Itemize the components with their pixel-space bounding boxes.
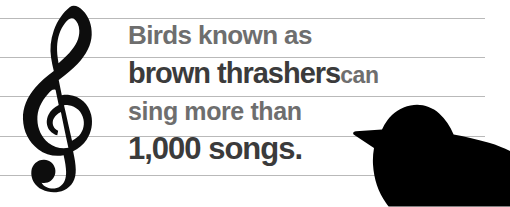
bird-silhouette-icon [352, 104, 510, 207]
treble-clef-icon [18, 4, 110, 200]
fact-line-2: brown thrasherscan [128, 59, 458, 88]
fact-line-1: Birds known as [128, 22, 458, 48]
fact-emphasis-brown-thrashers: brown thrashers [128, 57, 340, 89]
bird-fact-infographic: Birds known as brown thrasherscan sing m… [0, 0, 510, 207]
fact-plain-can: can [340, 62, 378, 88]
